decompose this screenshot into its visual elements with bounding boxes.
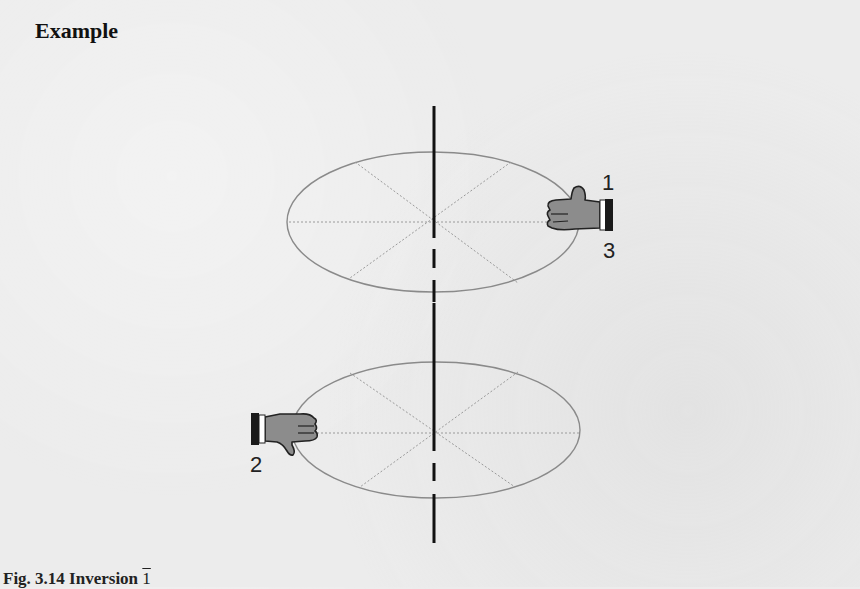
figure-title: Inversion	[69, 569, 138, 588]
figure-label: Fig. 3.14	[3, 569, 65, 588]
label-3: 3	[603, 238, 615, 263]
label-1: 1	[602, 170, 614, 195]
hand-icon-lower	[251, 413, 317, 455]
inversion-symbol: 1	[142, 569, 151, 588]
figure-caption: Fig. 3.14 Inversion 1	[3, 569, 151, 589]
lower-disc	[292, 362, 580, 498]
label-2: 2	[250, 452, 262, 477]
